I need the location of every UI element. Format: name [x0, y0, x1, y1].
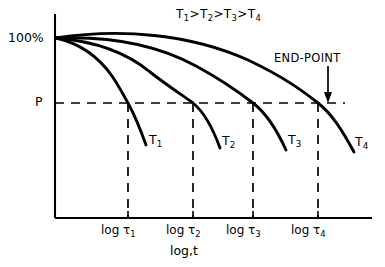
series-curve-t2 — [56, 38, 220, 148]
series-label-t1: T1 — [149, 134, 162, 147]
series-label-t4: T4 — [355, 136, 368, 149]
end-point-annotation-label: END-POINT — [274, 53, 341, 65]
y-axis-label-threshold-p: P — [35, 96, 43, 109]
series-curve-t1 — [56, 38, 146, 145]
series-label-t2: T2 — [222, 135, 235, 148]
end-point-arrow-head — [324, 92, 332, 103]
chart-figure: T1>T2>T3>T4 100% P END-POINT T1 T2 T3 T4… — [0, 0, 385, 267]
y-axis-label-100-percent: 100% — [8, 32, 44, 45]
end-point-arrow — [324, 66, 332, 103]
x-tick-label-1: log τ1 — [101, 224, 136, 236]
series-label-t3: T3 — [288, 134, 301, 147]
chart-axes — [55, 14, 372, 218]
x-axis-title: log,t — [170, 245, 198, 258]
x-tick-label-3: log τ3 — [226, 224, 261, 236]
x-tick-label-4: log τ4 — [291, 224, 326, 236]
crossing-dashed-lines — [128, 103, 318, 218]
chart-title: T1>T2>T3>T4 — [176, 8, 261, 20]
x-tick-label-2: log τ2 — [166, 224, 201, 236]
chart-title-text: T1>T2>T3>T4 — [176, 7, 261, 21]
